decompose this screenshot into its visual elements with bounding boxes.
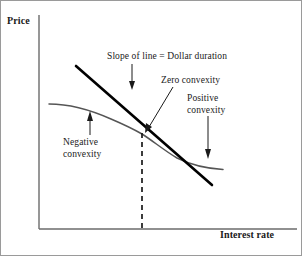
positive-convexity-leader-arrow bbox=[205, 116, 211, 159]
annotation-positive-convexity: Positive convexity bbox=[187, 93, 247, 116]
slope-leader-arrow bbox=[129, 64, 135, 90]
annotation-slope-dollar-duration: Slope of line = Dollar duration bbox=[107, 51, 227, 62]
x-axis-label: Interest rate bbox=[220, 229, 274, 240]
annotation-zero-convexity: Zero convexity bbox=[161, 75, 220, 86]
y-axis-label: Price bbox=[7, 15, 30, 26]
annotation-negative-convexity-line2: convexity bbox=[63, 149, 101, 159]
plot-canvas bbox=[1, 1, 302, 256]
annotation-positive-convexity-line1: Positive bbox=[187, 93, 218, 103]
zero-convexity-leader-arrow bbox=[145, 87, 173, 133]
convexity-figure: Price Interest rate Slope of line = Doll… bbox=[0, 0, 302, 256]
annotation-negative-convexity-line1: Negative bbox=[63, 137, 98, 147]
annotation-negative-convexity: Negative convexity bbox=[63, 137, 123, 160]
negative-convexity-leader-arrow bbox=[87, 111, 93, 135]
annotation-positive-convexity-line2: convexity bbox=[187, 105, 225, 115]
